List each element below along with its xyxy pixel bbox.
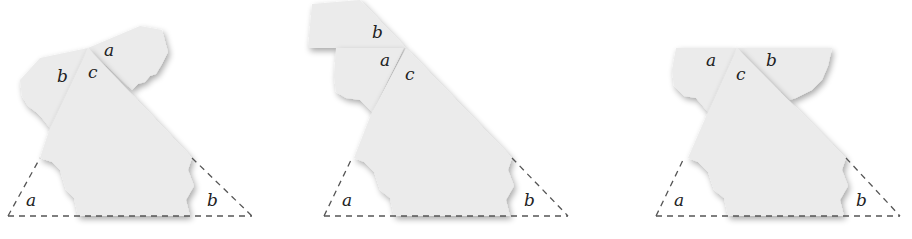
label-a: a <box>706 50 716 70</box>
label-c: c <box>88 62 98 82</box>
label-b: b <box>57 66 68 86</box>
label-a-bottom: a <box>26 190 36 210</box>
label-b-bottom: b <box>856 190 867 210</box>
panel-3: a c b a b <box>656 48 900 216</box>
panel-1: b c a a b <box>8 26 252 216</box>
label-b-bottom: b <box>524 190 535 210</box>
label-b-top: b <box>372 22 383 42</box>
label-c: c <box>736 64 746 84</box>
pythagorean-figure: b c a a b b a c a b a c b a b <box>0 0 912 239</box>
label-c: c <box>405 64 415 84</box>
panel-2: b a c a b <box>308 0 568 216</box>
dashed-leg-right <box>846 158 900 216</box>
label-a-top: a <box>380 50 390 70</box>
dashed-leg-right <box>192 158 252 216</box>
label-b-bottom: b <box>207 190 218 210</box>
label-a-bottom: a <box>674 190 684 210</box>
label-a: a <box>104 40 114 60</box>
dashed-leg-right <box>512 158 568 216</box>
label-a-bottom: a <box>342 190 352 210</box>
label-b: b <box>766 50 777 70</box>
torn-piece-b <box>308 0 406 48</box>
